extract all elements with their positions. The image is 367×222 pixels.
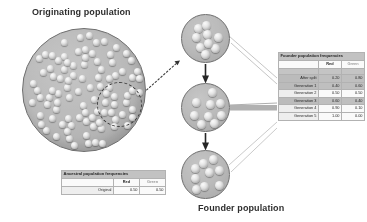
founder-population-frequencies-table: Founder population frequencies Red Green… xyxy=(278,52,365,121)
table-row: After split 0.20 0.80 xyxy=(279,74,365,82)
marble xyxy=(85,140,92,147)
marble xyxy=(215,166,224,175)
marble xyxy=(66,94,73,101)
marble xyxy=(101,38,108,45)
founder-circle-generation-a xyxy=(181,14,230,63)
marble xyxy=(204,39,213,48)
row-label-generation-2: Generation 2 xyxy=(279,90,319,98)
row-green-generation-1: 0.60 xyxy=(342,82,365,90)
ancestral-population-frequencies-table: Ancestral population frequencies Red Gre… xyxy=(61,170,166,195)
sampling-arrow xyxy=(141,61,180,96)
founder-col-green: Green xyxy=(342,61,365,69)
marble xyxy=(55,57,62,64)
ancestral-col-green: Green xyxy=(140,179,166,187)
marble xyxy=(64,84,71,91)
marble xyxy=(70,62,77,69)
row-red-generation-2: 0.50 xyxy=(319,90,342,98)
marble xyxy=(87,84,94,91)
marble xyxy=(54,99,61,106)
marble xyxy=(75,88,82,95)
marble xyxy=(208,88,217,97)
marble xyxy=(106,75,113,82)
marble xyxy=(50,73,57,80)
generation-arrow-2 xyxy=(202,133,209,151)
founder-col-red: Red xyxy=(319,61,342,69)
marble xyxy=(53,133,60,140)
marble xyxy=(202,21,211,30)
row-green-generation-5: 0.00 xyxy=(342,112,365,120)
marble xyxy=(29,99,36,106)
row-green-original: 0.50 xyxy=(140,186,166,194)
marble xyxy=(136,75,143,82)
marble xyxy=(61,39,68,46)
marble xyxy=(205,168,214,177)
row-red-generation-5: 1.00 xyxy=(319,112,342,120)
marble xyxy=(57,75,64,82)
marble xyxy=(82,46,89,53)
table-row: Generation 3 0.60 0.40 xyxy=(279,97,365,105)
founder-table-title: Founder population frequencies xyxy=(279,53,365,61)
marble xyxy=(93,39,100,46)
marble xyxy=(214,33,223,42)
marble xyxy=(98,125,105,132)
marble xyxy=(55,90,62,97)
marble xyxy=(199,159,208,168)
leader-lines-gen-a xyxy=(229,36,277,84)
row-red-generation-3: 0.60 xyxy=(319,97,342,105)
marble xyxy=(89,114,96,121)
table-title-row: Founder population frequencies xyxy=(279,53,365,61)
table-row: Generation 1 0.40 0.60 xyxy=(279,82,365,90)
row-green-generation-3: 0.40 xyxy=(342,97,365,105)
marble xyxy=(42,51,49,58)
marble xyxy=(79,75,86,82)
marble xyxy=(129,74,136,81)
marble xyxy=(190,111,199,120)
row-label-generation-5: Generation 5 xyxy=(279,112,319,120)
marble xyxy=(203,30,212,39)
originating-population-label: Originating population xyxy=(32,7,131,17)
marble xyxy=(128,57,135,64)
row-label-generation-1: Generation 1 xyxy=(279,82,319,90)
marble xyxy=(192,98,201,107)
marble xyxy=(82,54,89,61)
marble xyxy=(113,44,120,51)
table-row: Generation 5 1.00 0.00 xyxy=(279,112,365,120)
ancestral-col-blank xyxy=(62,179,114,187)
row-red-generation-1: 0.40 xyxy=(319,82,342,90)
marble xyxy=(64,59,71,66)
founder-population-label: Founder population xyxy=(198,203,284,213)
marble xyxy=(123,50,130,57)
marble xyxy=(38,121,45,128)
table-row: Generation 4 0.90 0.10 xyxy=(279,105,365,113)
founder-circle-generation-b xyxy=(181,83,230,132)
marble xyxy=(92,139,99,146)
marble xyxy=(107,51,114,58)
marble xyxy=(99,140,106,147)
marble xyxy=(119,68,126,75)
table-row: Generation 2 0.50 0.50 xyxy=(279,90,365,98)
marble xyxy=(109,59,116,66)
row-label-original: Original xyxy=(62,186,114,194)
marble xyxy=(75,48,82,55)
founder-circle-generation-c xyxy=(181,150,230,199)
marble xyxy=(43,127,50,134)
marble xyxy=(98,66,105,73)
leader-lines-gen-b xyxy=(230,103,277,110)
marble xyxy=(49,87,56,94)
row-green-generation-2: 0.50 xyxy=(342,90,365,98)
marble xyxy=(112,72,119,79)
marble xyxy=(95,74,102,81)
generation-arrow-1 xyxy=(202,64,209,84)
marble xyxy=(53,106,60,113)
row-green-generation-4: 0.10 xyxy=(342,105,365,113)
marble xyxy=(71,142,78,149)
marble xyxy=(64,128,71,135)
marble xyxy=(80,102,87,109)
marble xyxy=(192,33,201,42)
marble xyxy=(83,132,90,139)
marble xyxy=(59,121,66,128)
marble xyxy=(206,100,215,109)
marble xyxy=(217,111,226,120)
row-red-original: 0.50 xyxy=(114,186,140,194)
row-label-generation-3: Generation 3 xyxy=(279,97,319,105)
